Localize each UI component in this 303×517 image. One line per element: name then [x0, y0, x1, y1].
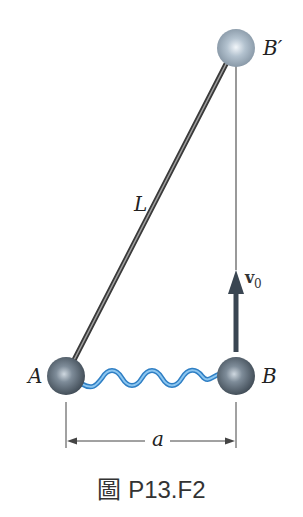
label-b: B [261, 364, 277, 388]
label-velocity-subscript: 0 [254, 277, 262, 291]
dimension-arrow-left [67, 438, 77, 445]
ball-b [217, 357, 255, 395]
label-distance-a: a [152, 427, 164, 451]
ball-b-prime [217, 29, 255, 67]
diagram-canvas: B′ L A B a v 0 [0, 0, 303, 517]
figure-caption: 圖 P13.F2 [0, 470, 303, 505]
rod-l [74, 64, 226, 360]
dimension-a [66, 402, 236, 448]
label-a: A [26, 364, 42, 388]
ball-a [47, 357, 85, 395]
label-b-prime: B′ [262, 36, 283, 60]
velocity-arrow [228, 270, 244, 352]
dimension-arrow-right [225, 438, 235, 445]
label-l: L [133, 192, 147, 216]
